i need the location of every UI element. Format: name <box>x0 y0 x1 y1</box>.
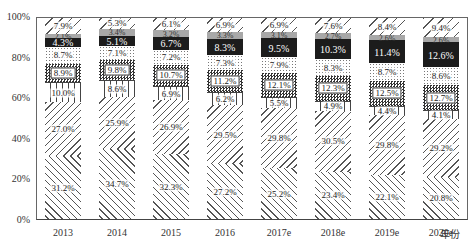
data-label: 25.2% <box>266 189 291 198</box>
y-tick-label: 20% <box>0 173 30 184</box>
bar-segment: 6.7% <box>153 37 189 50</box>
data-label: 32.3% <box>158 182 183 191</box>
y-tick-label: 60% <box>0 92 30 103</box>
bar-segment: 8.4% <box>369 18 405 35</box>
bar-segment: 4.1% <box>423 110 459 118</box>
x-tick-label: 2019e <box>362 227 412 238</box>
bar-segment: 5.3% <box>99 18 135 29</box>
x-axis-label: 年份 <box>440 226 460 241</box>
bar-segment: 12.6% <box>423 42 459 67</box>
bar-segment: 10.3% <box>315 39 351 60</box>
data-label: 8.3% <box>214 42 237 51</box>
bar-segment: 29.8% <box>369 115 405 175</box>
data-label: 29.5% <box>212 130 237 139</box>
bar-segment: 22.1% <box>369 175 405 219</box>
data-label: 8.9% <box>51 68 76 79</box>
bar-segment: 12.1% <box>261 73 297 97</box>
bar-segment: 2.6% <box>423 37 459 42</box>
data-label: 5.1% <box>106 36 129 45</box>
data-label: 4.9% <box>323 102 344 111</box>
bar-segment: 29.8% <box>261 108 297 168</box>
data-label: 9.4% <box>431 23 452 32</box>
bar-segment: 2.7% <box>315 33 351 38</box>
data-label: 7.6% <box>323 21 344 30</box>
data-label: 30.5% <box>320 137 345 146</box>
bar-2013: 31.2%27.0%10.0%8.9%8.7%4.3%2.1%7.9% <box>45 18 81 219</box>
y-tick-label: 100% <box>0 11 30 22</box>
data-label: 8.6% <box>431 72 452 81</box>
data-label: 6.9% <box>161 89 182 98</box>
data-label: 29.8% <box>266 134 291 143</box>
data-label: 34.7% <box>104 180 129 189</box>
bar-segment: 12.3% <box>315 76 351 101</box>
x-tick-label: 2017e <box>254 227 304 238</box>
bar-segment: 26.9% <box>153 100 189 154</box>
data-label: 8.7% <box>377 67 398 76</box>
bar-segment: 9.5% <box>261 38 297 57</box>
data-label: 10.3% <box>319 45 347 54</box>
data-label: 3.4% <box>108 28 127 37</box>
data-label: 3.3% <box>216 31 235 40</box>
bar-segment: 8.6% <box>423 67 459 84</box>
bar-segment: 10.7% <box>153 65 189 87</box>
bar-segment: 10.0% <box>45 82 81 102</box>
data-label: 6.9% <box>269 20 290 29</box>
x-tick-label: 2014 <box>92 227 142 238</box>
bar-segment: 7.9% <box>261 57 297 73</box>
bar-segment: 3.1% <box>261 32 297 38</box>
bar-segment: 8.7% <box>45 47 81 64</box>
data-label: 7.9% <box>269 61 290 70</box>
data-label: 6.9% <box>215 21 236 30</box>
bar-segment: 3.4% <box>99 29 135 36</box>
bar-segment: 6.2% <box>207 92 243 104</box>
bar-segment: 31.2% <box>45 156 81 219</box>
x-tick-label: 2018e <box>308 227 358 238</box>
data-label: 7.1% <box>107 48 128 57</box>
data-label: 12.6% <box>427 50 455 59</box>
bar-segment: 9.8% <box>99 60 135 80</box>
data-label: 12.1% <box>264 80 293 91</box>
data-label: 27.2% <box>212 187 237 196</box>
bar-segment: 4.9% <box>315 101 351 111</box>
data-label: 7.2% <box>161 53 182 62</box>
bar-segment: 5.5% <box>261 97 297 108</box>
bar-segment: 12.7% <box>423 85 459 111</box>
y-tick-label: 0% <box>0 214 30 225</box>
data-label: 9.8% <box>105 64 130 75</box>
bar-segment: 6.9% <box>207 18 243 32</box>
bar-2020e: 20.8%29.2%4.1%12.7%8.6%12.6%2.6%9.4% <box>423 18 459 219</box>
data-label: 4.4% <box>377 106 398 115</box>
bar-2014: 34.7%25.9%8.6%9.8%7.1%5.1%3.4%5.3% <box>99 18 135 219</box>
data-label: 8.7% <box>53 51 74 60</box>
bar-segment: 7.6% <box>315 18 351 33</box>
plot-area: 31.2%27.0%10.0%8.9%8.7%4.3%2.1%7.9%34.7%… <box>36 17 468 220</box>
data-label: 4.1% <box>431 110 452 119</box>
bar-segment: 3.3% <box>207 32 243 39</box>
data-label: 6.1% <box>161 20 182 29</box>
bar-segment: 29.2% <box>423 119 459 178</box>
data-label: 11.4% <box>373 47 400 56</box>
bar-segment: 25.2% <box>261 168 297 219</box>
data-label: 5.5% <box>269 99 290 108</box>
bar-segment: 27.0% <box>45 102 81 156</box>
bar-segment: 8.3% <box>207 39 243 56</box>
bar-segment: 30.5% <box>315 111 351 172</box>
bar-segment: 25.9% <box>99 97 135 149</box>
bar-segment: 23.4% <box>315 172 351 219</box>
bar-segment: 11.4% <box>369 40 405 63</box>
data-label: 8.4% <box>377 22 398 31</box>
data-label: 6.2% <box>215 95 236 104</box>
bar-segment: 12.5% <box>369 81 405 106</box>
bar-segment: 34.7% <box>99 149 135 219</box>
bar-segment: 9.4% <box>423 18 459 37</box>
data-label: 22.1% <box>374 192 399 201</box>
data-label: 29.8% <box>374 140 399 149</box>
data-label: 7.9% <box>53 21 74 30</box>
bar-segment: 3.2% <box>153 30 189 36</box>
bar-2016: 27.2%29.5%6.2%11.2%7.3%8.3%3.3%6.9% <box>207 18 243 219</box>
bar-segment: 2.6% <box>369 35 405 40</box>
data-label: 10.7% <box>156 70 185 81</box>
bar-segment: 6.9% <box>153 86 189 100</box>
y-tick-label: 40% <box>0 133 30 144</box>
bar-segment: 7.3% <box>207 55 243 70</box>
